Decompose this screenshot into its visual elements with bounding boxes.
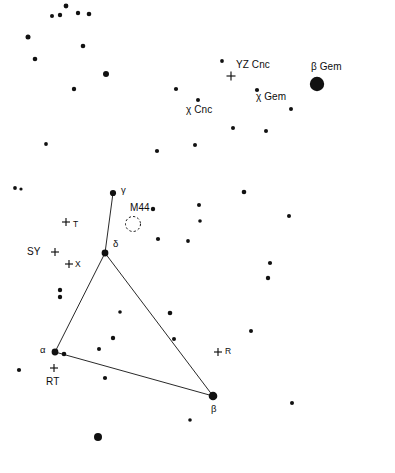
star-marker (197, 203, 201, 207)
star-marker (209, 392, 218, 401)
star-marker (58, 288, 62, 292)
star-marker (186, 239, 190, 243)
star-marker (193, 143, 197, 147)
beta-label: β (211, 404, 217, 414)
chi-gem-label: χ Gem (256, 92, 286, 102)
star-marker (58, 295, 62, 299)
star-marker (103, 376, 107, 380)
t-label: T (73, 220, 78, 229)
star-marker (19, 187, 22, 190)
star-marker (94, 433, 102, 441)
star-marker (172, 337, 176, 341)
star-marker (287, 214, 291, 218)
m44-label: M44 (130, 203, 150, 213)
star-marker (249, 329, 253, 333)
star-marker (97, 347, 101, 351)
star-marker (62, 352, 67, 357)
star-marker (289, 107, 293, 111)
star-marker (58, 13, 62, 17)
star-marker (174, 87, 178, 91)
star-marker (310, 77, 324, 91)
star-marker (118, 310, 122, 314)
star-marker (76, 11, 80, 15)
star-marker (87, 12, 92, 17)
star-marker (264, 129, 268, 133)
star-marker (103, 71, 109, 77)
alpha-label: α (40, 345, 46, 355)
star-marker (64, 4, 69, 9)
star-marker (26, 35, 31, 40)
chi-cnc-label: χ Cnc (186, 105, 212, 115)
star-marker (17, 368, 21, 372)
star-marker (52, 349, 59, 356)
star-marker (198, 219, 202, 223)
star-marker (220, 59, 224, 63)
rt-label: RT (46, 377, 59, 387)
star-marker (111, 336, 115, 340)
star-marker (155, 149, 159, 153)
star-marker (72, 87, 76, 91)
sy-label: SY (27, 247, 41, 257)
star-marker (50, 14, 54, 18)
star-marker (13, 186, 17, 190)
star-chart: YZ Cncβ Gemχ Gemχ CncγM44TδSYXαRRTβ (0, 0, 395, 473)
star-marker (290, 401, 294, 405)
star-marker (33, 57, 38, 62)
star-marker (188, 418, 192, 422)
yz-cnc-label: YZ Cnc (236, 60, 270, 70)
star-marker (266, 276, 270, 280)
star-marker (110, 190, 116, 196)
r-label: R (225, 347, 231, 356)
delta-label: δ (113, 239, 118, 249)
star-marker (44, 142, 48, 146)
star-marker (268, 261, 272, 265)
star-marker (168, 311, 173, 316)
beta-gem-label: β Gem (311, 62, 342, 72)
star-marker (81, 44, 86, 49)
star-marker (196, 98, 200, 102)
gamma-label: γ (121, 185, 126, 195)
star-marker (242, 190, 247, 195)
x-label: X (75, 260, 81, 269)
star-marker (151, 207, 155, 211)
star-marker (231, 126, 235, 130)
star-marker (102, 250, 109, 257)
star-marker (156, 237, 160, 241)
